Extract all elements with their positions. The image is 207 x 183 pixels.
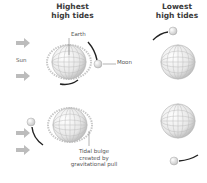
moon-icon: [27, 118, 35, 126]
moon-icon: [94, 60, 102, 68]
moon-icon: [169, 27, 177, 35]
earth-globe-icon: [48, 108, 92, 142]
tides-diagram: [0, 0, 207, 183]
moon-icon: [170, 157, 178, 165]
sun-arrow-icon: [16, 38, 30, 155]
earth-globe-icon: [161, 104, 195, 138]
earth-globe-icon: [161, 45, 195, 79]
